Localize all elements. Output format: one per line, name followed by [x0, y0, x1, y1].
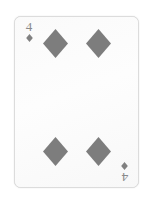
corner-index-bottom-right: 4	[117, 162, 133, 183]
card-face: 4 4	[15, 17, 138, 187]
diamond-pip	[43, 29, 68, 58]
playing-card[interactable]: 4 4	[14, 16, 139, 188]
corner-rank-bottom-right: 4	[117, 171, 133, 183]
diamond-icon	[26, 34, 33, 42]
card-scene: 4 4	[0, 0, 153, 207]
corner-rank-top-left: 4	[21, 21, 37, 33]
corner-index-top-left: 4	[21, 21, 37, 42]
diamond-pip	[86, 137, 111, 166]
diamond-pip	[86, 29, 111, 58]
diamond-icon	[122, 162, 129, 170]
diamond-pip	[43, 137, 68, 166]
